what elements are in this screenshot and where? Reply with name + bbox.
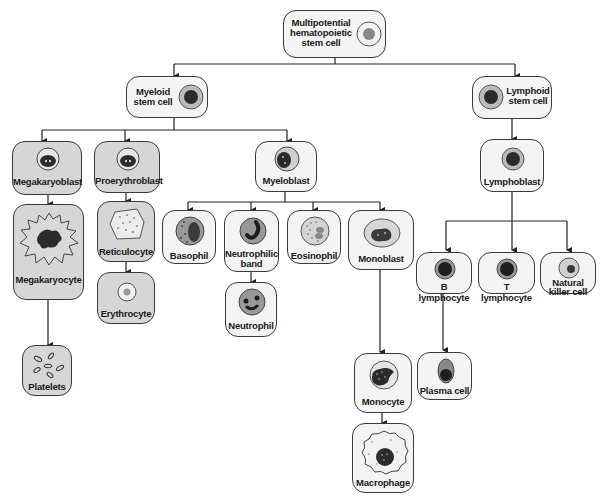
monoblast-icon	[361, 216, 403, 250]
myeloblast-icon	[272, 145, 302, 173]
monocyte-icon	[365, 358, 403, 392]
node-label: stem cell	[506, 96, 550, 107]
node-neutrophil: Neutrophil	[225, 282, 277, 337]
node-t-lymphocyte: T lymphocyte	[478, 252, 535, 294]
node-label: Plasma cell	[418, 386, 471, 397]
node-lymphoblast: Lymphoblast	[480, 139, 544, 192]
t-lymphocyte-icon	[495, 257, 519, 281]
node-monoblast: Monoblast	[348, 210, 414, 270]
node-label: Lymphoblast	[481, 177, 543, 188]
node-natural-killer-cell: Natural killer cell	[540, 252, 596, 294]
node-erythrocyte: Erythrocyte	[97, 272, 155, 324]
eosinophil-icon	[298, 214, 332, 248]
node-label: stem cell	[287, 38, 355, 49]
node-megakaryocyte: Megakaryocyte	[13, 204, 84, 300]
proerythroblast-icon	[115, 146, 141, 172]
macrophage-icon	[357, 428, 411, 476]
node-label: Myeloblast	[256, 176, 316, 187]
node-monocyte: Monocyte	[354, 353, 412, 413]
node-proerythroblast: Proerythroblast	[94, 141, 160, 193]
megakaryocyte-icon	[16, 209, 82, 269]
node-label: Monoblast	[349, 254, 413, 265]
node-myeloid-stem-cell: Myeloid stem cell	[126, 76, 208, 118]
node-platelets: Platelets	[22, 345, 72, 396]
node-macrophage: Macrophage	[352, 423, 414, 493]
node-label: Megakaryoblast	[13, 177, 81, 188]
node-plasma-cell: Plasma cell	[417, 352, 472, 400]
stem-cell-icon	[355, 20, 383, 48]
lymphoblast-icon	[500, 146, 526, 172]
plasma-cell-icon	[435, 356, 457, 386]
node-label: Neutrophil	[226, 321, 276, 332]
node-label: Monocyte	[355, 397, 411, 408]
node-reticulocyte: Reticulocyte	[97, 201, 155, 262]
megakaryoblast-icon	[35, 146, 61, 172]
node-label: T lymphocyte	[479, 282, 534, 303]
node-stem-cell: Multipotential hematopoietic stem cell	[283, 10, 386, 58]
node-myeloblast: Myeloblast	[255, 141, 317, 192]
neutrophil-icon	[237, 287, 267, 317]
node-basophil: Basophil	[162, 210, 216, 264]
node-label: Megakaryocyte	[14, 275, 83, 286]
myeloid-stem-cell-icon	[177, 83, 205, 111]
node-label: band	[225, 259, 278, 270]
node-label: stem cell	[131, 97, 175, 108]
b-lymphocyte-icon	[433, 257, 457, 281]
node-neutrophilic-band: Neutrophilic band	[224, 210, 279, 272]
node-label: Erythrocyte	[98, 309, 154, 320]
hematopoiesis-diagram: Multipotential hematopoietic stem cell M…	[0, 0, 602, 500]
node-label: Basophil	[163, 251, 215, 262]
node-label: Reticulocyte	[98, 247, 154, 258]
basophil-icon	[173, 214, 207, 248]
node-eosinophil: Eosinophil	[287, 210, 341, 264]
reticulocyte-icon	[107, 206, 147, 242]
node-lymphoid-stem-cell: Lymphoid stem cell	[472, 76, 552, 119]
node-label: killer cell	[541, 287, 595, 298]
node-label: Eosinophil	[288, 251, 340, 262]
lymphoid-stem-cell-icon	[477, 83, 505, 111]
node-b-lymphocyte: B lymphocyte	[416, 252, 472, 294]
node-megakaryoblast: Megakaryoblast	[12, 141, 82, 195]
node-label: Proerythroblast	[95, 176, 159, 187]
node-label: B lymphocyte	[417, 282, 471, 303]
node-label: Macrophage	[353, 478, 413, 489]
platelets-icon	[28, 350, 68, 380]
erythrocyte-icon	[115, 280, 139, 304]
node-label: Platelets	[23, 382, 71, 393]
neutrophilic-band-icon	[237, 215, 269, 247]
